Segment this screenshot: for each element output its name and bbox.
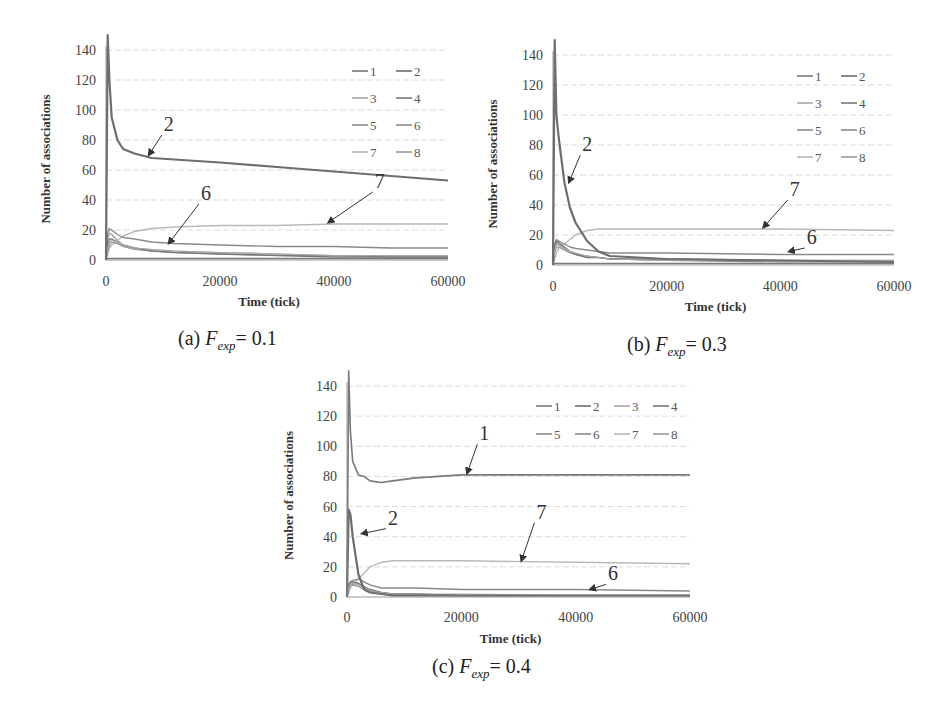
svg-text:8: 8 [414,145,421,160]
series-lines [347,371,690,597]
svg-text:20000: 20000 [649,279,684,294]
annotation-7: 7 [328,170,384,223]
x-axis-label: Time (tick) [238,294,300,309]
caption-value: = 0.4 [489,655,530,677]
y-tick-labels: 020406080100120140 [75,43,96,268]
svg-text:4: 4 [414,91,421,106]
x-tick-labels: 0200004000060000 [103,274,466,289]
svg-text:8: 8 [671,427,678,442]
series-line-2 [347,510,690,597]
series-line-2 [106,35,448,260]
legend-item-7: 7 [352,145,377,160]
legend-item-8: 8 [396,145,421,160]
svg-text:120: 120 [316,409,337,424]
gridlines [553,55,894,235]
legend: 12345678 [797,69,866,165]
caption-prefix: (a) [178,327,205,349]
caption-panel-b: (b) Fexp= 0.3 [627,333,727,360]
svg-text:0: 0 [330,590,337,605]
svg-text:6: 6 [414,118,421,133]
legend-item-6: 6 [575,427,600,442]
svg-text:20: 20 [323,560,337,575]
svg-text:20: 20 [82,223,96,238]
y-axis-label: Number of associations [485,99,500,228]
series-line-2 [553,40,894,265]
svg-text:140: 140 [316,379,337,394]
annotations: 276 [569,133,817,252]
caption-variable: F [205,327,217,349]
svg-text:5: 5 [370,118,377,133]
svg-text:60000: 60000 [877,279,912,294]
svg-text:0: 0 [536,258,543,273]
svg-text:2: 2 [859,69,866,84]
chart-panel-c: 0204060801001201400200004000060000Time (… [281,371,708,646]
annotation-7: 7 [521,501,546,561]
svg-text:3: 3 [632,399,639,414]
legend-item-4: 4 [653,399,678,414]
chart-canvas: 0204060801001201400200004000060000Time (… [0,0,948,719]
svg-text:2: 2 [388,507,398,529]
svg-text:40000: 40000 [558,610,593,625]
svg-text:7: 7 [790,178,800,200]
legend-item-7: 7 [614,427,639,442]
legend-item-3: 3 [614,399,639,414]
caption-variable: F [655,333,667,355]
legend-item-5: 5 [352,118,377,133]
caption-variable: F [459,655,471,677]
svg-text:140: 140 [75,43,96,58]
legend-item-8: 8 [841,150,866,165]
svg-text:3: 3 [815,96,822,111]
svg-text:5: 5 [554,427,561,442]
svg-text:20: 20 [529,228,543,243]
annotation-6: 6 [169,182,211,244]
x-tick-labels: 0200004000060000 [550,279,912,294]
annotations: 1276 [362,422,618,589]
caption-prefix: (b) [627,333,655,355]
svg-text:2: 2 [164,113,174,135]
svg-text:6: 6 [859,123,866,138]
caption-panel-c: (c) Fexp= 0.4 [432,655,531,682]
svg-text:60000: 60000 [673,610,708,625]
svg-text:40000: 40000 [763,279,798,294]
svg-text:0: 0 [344,610,351,625]
svg-text:6: 6 [201,182,211,204]
legend: 12345678 [352,64,421,160]
legend-item-2: 2 [396,64,421,79]
y-axis-label: Number of associations [281,431,296,560]
svg-text:2: 2 [582,133,592,155]
svg-text:3: 3 [370,91,377,106]
svg-text:0: 0 [550,279,557,294]
legend-item-7: 7 [797,150,822,165]
y-tick-labels: 020406080100120140 [316,379,337,605]
svg-text:80: 80 [529,138,543,153]
svg-text:7: 7 [632,427,639,442]
series-lines [106,35,448,260]
svg-text:60: 60 [82,163,96,178]
svg-text:6: 6 [593,427,600,442]
legend-item-1: 1 [797,69,822,84]
legend-item-2: 2 [841,69,866,84]
svg-text:7: 7 [370,145,377,160]
svg-text:60: 60 [323,500,337,515]
y-tick-labels: 020406080100120140 [522,48,543,273]
svg-text:8: 8 [859,150,866,165]
legend-item-1: 1 [536,399,561,414]
svg-text:80: 80 [82,133,96,148]
svg-text:4: 4 [671,399,678,414]
svg-text:0: 0 [103,274,110,289]
annotation-1: 1 [467,422,489,473]
series-line-7 [347,561,690,597]
legend: 12345678 [536,399,678,442]
svg-text:5: 5 [815,123,822,138]
svg-text:60: 60 [529,168,543,183]
legend-item-4: 4 [841,96,866,111]
x-axis-label: Time (tick) [480,631,542,646]
svg-text:40000: 40000 [317,274,352,289]
annotation-2: 2 [149,113,174,155]
svg-text:6: 6 [807,226,817,248]
legend-item-8: 8 [653,427,678,442]
legend-item-3: 3 [352,91,377,106]
svg-text:80: 80 [323,469,337,484]
chart-panel-a: 0204060801001201400200004000060000Time (… [38,35,466,309]
legend-item-2: 2 [575,399,600,414]
